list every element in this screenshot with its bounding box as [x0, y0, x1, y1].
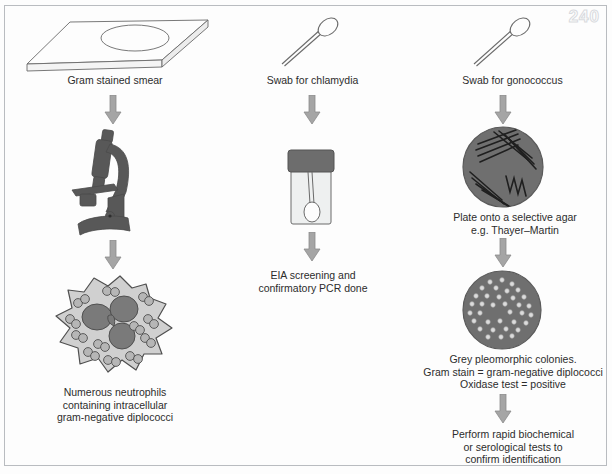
down-arrow-icon: [303, 232, 321, 262]
down-arrow-icon: [494, 394, 512, 424]
down-arrow-icon: [494, 238, 512, 268]
diagram-page: 240 Gram stained smear: [0, 0, 612, 474]
caption-perform-rapid-biochemical: Perform rapid biochemical or serological…: [418, 428, 608, 466]
cotton-swab-icon: [278, 16, 342, 68]
caption-numerous-neutrophils: Numerous neutrophils containing intracel…: [10, 386, 220, 424]
page-number: 240: [569, 7, 600, 27]
caption-grey-pleomorphic-colonies: Grey pleomorphic colonies. Gram stain = …: [413, 353, 612, 391]
neutrophil-cell-icon: [50, 272, 180, 380]
microscope-icon: [66, 128, 166, 240]
down-arrow-icon: [303, 95, 321, 125]
caption-eia-screening: EIA screening and confirmatory PCR done: [238, 269, 388, 294]
caption-gram-stained-smear: Gram stained smear: [10, 74, 220, 87]
down-arrow-icon: [104, 240, 122, 270]
caption-plate-selective-agar: Plate onto a selective agar e.g. Thayer–…: [425, 211, 605, 236]
down-arrow-icon: [104, 95, 122, 125]
down-arrow-icon: [494, 95, 512, 125]
caption-swab-for-chlamydia: Swab for chlamydia: [240, 74, 385, 87]
cotton-swab-icon: [470, 16, 534, 68]
specimen-tube-icon: [284, 148, 338, 226]
caption-swab-for-gonococcus: Swab for gonococcus: [425, 74, 600, 87]
microscope-slide-icon: [22, 12, 212, 77]
colony-agar-plate-icon: [458, 266, 546, 354]
streaked-agar-plate-icon: [458, 122, 548, 212]
